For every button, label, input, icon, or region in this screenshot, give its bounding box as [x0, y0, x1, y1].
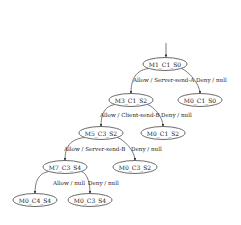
state-node-label: M0_C4_S4	[19, 197, 51, 205]
state-node-label: M7_C3_S4	[49, 164, 81, 172]
state-node-label: M0_C3_S4	[74, 197, 106, 205]
state-node: M0_C3_S4	[68, 194, 112, 207]
edge-label: Deny / null	[88, 180, 119, 187]
edge-label: Allow / Client-send-B	[99, 112, 160, 118]
transition-edge	[35, 172, 49, 194]
state-node-label: M0_C3_S2	[119, 164, 151, 172]
edge-label: Deny / null	[161, 112, 192, 119]
edge-label: Allow / Server-send-A	[132, 77, 195, 83]
state-node: M0_C1_S2	[141, 127, 185, 140]
state-node: M1_C1_S0	[143, 58, 187, 71]
state-node: M5_C3_S2	[79, 127, 123, 140]
state-node: M7_C3_S4	[43, 161, 87, 174]
state-node: M3_C1_S2	[109, 94, 153, 107]
edge-label: Allow / null	[52, 180, 85, 186]
state-node-label: M0_C1_S2	[147, 130, 179, 138]
state-node-label: M1_C1_S0	[149, 61, 181, 69]
edge-label: Deny / null	[196, 77, 227, 84]
state-node-label: M5_C3_S2	[85, 130, 117, 138]
state-node-label: M0_C1_S0	[184, 97, 216, 105]
state-node: M0_C3_S2	[113, 161, 157, 174]
edge-label: Allow / Server-send-B	[63, 146, 125, 152]
state-diagram: M1_C1_S0M3_C1_S2M0_C1_S0M5_C3_S2M0_C1_S2…	[0, 0, 241, 225]
state-node: M0_C4_S4	[13, 194, 57, 207]
state-node: M0_C1_S0	[178, 94, 222, 107]
state-node-label: M3_C1_S2	[115, 97, 147, 105]
edge-label: Deny / null	[131, 146, 162, 153]
